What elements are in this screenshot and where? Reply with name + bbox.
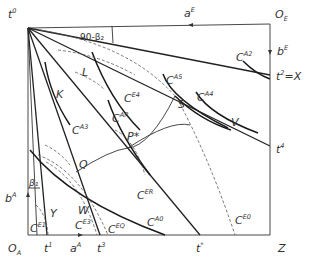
contract-curve — [76, 96, 175, 172]
svg-text:aE: aE — [184, 6, 196, 20]
svg-text:β₁: β₁ — [28, 178, 39, 188]
svg-text:OE: OE — [275, 8, 289, 23]
svg-text:aA: aA — [70, 241, 81, 255]
svg-text:Q: Q — [79, 158, 88, 171]
svg-text:t1: t1 — [44, 241, 52, 255]
svg-text:t*: t* — [196, 241, 204, 255]
svg-text:W: W — [78, 204, 90, 217]
svg-text:S: S — [178, 98, 185, 111]
svg-text:CE0: CE0 — [235, 213, 251, 227]
edgeworth-box-diagram: t0 aE OE bE t2=X t4 bA OA t1 aA t3 t* Z … — [0, 0, 309, 263]
A-indifference-curves — [30, 52, 270, 235]
svg-text:CER: CER — [137, 188, 153, 202]
svg-text:L: L — [82, 66, 88, 79]
svg-text:CA3: CA3 — [72, 123, 88, 137]
svg-text:CEQ: CEQ — [108, 222, 125, 236]
svg-text:CAR: CAR — [112, 111, 129, 125]
svg-text:CE1: CE1 — [30, 221, 46, 235]
svg-text:CA0: CA0 — [147, 215, 163, 229]
arrow-aA-icon — [78, 233, 83, 237]
svg-text:Y: Y — [50, 207, 58, 220]
svg-text:OA: OA — [8, 242, 21, 257]
svg-text:V: V — [231, 116, 240, 129]
svg-text:K: K — [56, 88, 64, 101]
svg-text:t2=X: t2=X — [276, 69, 302, 83]
arrow-bA-icon — [26, 192, 30, 197]
svg-text:CE4: CE4 — [124, 91, 140, 105]
svg-text:t3: t3 — [97, 241, 105, 255]
arrow-aE-icon — [188, 23, 193, 27]
svg-text:Z: Z — [277, 242, 286, 255]
svg-text:t4: t4 — [276, 142, 284, 156]
arrow-bE-icon — [268, 50, 272, 55]
svg-text:CA4: CA4 — [197, 90, 213, 104]
svg-text:90-β₂: 90-β₂ — [80, 32, 104, 42]
svg-text:CE3: CE3 — [75, 218, 91, 232]
box-frame — [28, 24, 270, 235]
svg-text:bA: bA — [5, 191, 16, 205]
svg-text:CA5: CA5 — [166, 73, 182, 87]
rays — [28, 28, 270, 235]
curve-EQ — [38, 155, 108, 235]
svg-text:bE: bE — [277, 44, 289, 58]
svg-text:P*: P* — [127, 130, 140, 143]
label-t0: t0 — [8, 7, 16, 21]
